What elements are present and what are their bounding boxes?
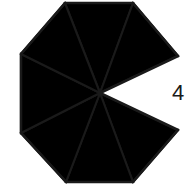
side-length-label: 4 — [172, 82, 184, 104]
figure-container: 4 — [0, 0, 194, 195]
octagon-diagram — [0, 0, 194, 195]
center-point — [97, 90, 102, 95]
